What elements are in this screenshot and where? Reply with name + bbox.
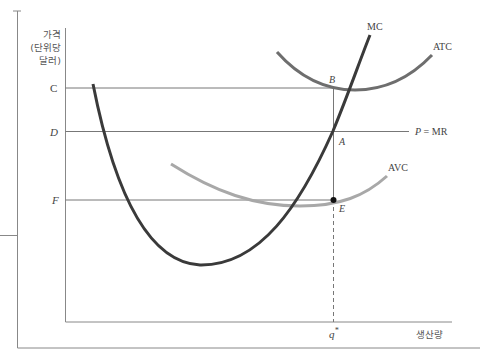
y-axis-title: 가격 (단위당 달러): [14, 28, 61, 67]
tick-label-c: C: [50, 83, 57, 94]
curve-label-p-mr: P = MR: [415, 127, 447, 137]
x-axis-title: 생산량: [416, 328, 443, 341]
point-label-e: E: [339, 204, 345, 214]
tick-label-f: F: [52, 195, 59, 206]
curve-label-mc: MC: [367, 22, 383, 32]
tick-label-d: D: [50, 127, 58, 138]
curve-label-avc: AVC: [388, 163, 408, 173]
point-label-a: A: [339, 137, 345, 147]
point-label-b: B: [329, 75, 335, 85]
price-lines: [66, 88, 410, 200]
mc-curve: [93, 35, 370, 265]
y-axis-title-line3: 달러): [14, 54, 61, 67]
axes: [66, 28, 453, 322]
tick-label-q-star: q*: [329, 327, 339, 340]
y-axis-title-line2: (단위당: [14, 41, 61, 54]
curve-label-atc: ATC: [433, 42, 452, 52]
atc-curve: [277, 52, 432, 90]
y-axis-title-line1: 가격: [14, 28, 61, 41]
outer-frame: [0, 11, 480, 348]
curve-label-mr: = MR: [421, 126, 447, 137]
cost-curves-chart: [0, 0, 480, 357]
tick-label-star: *: [335, 326, 339, 335]
point-e-dot: [331, 197, 337, 203]
